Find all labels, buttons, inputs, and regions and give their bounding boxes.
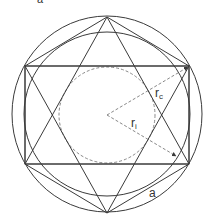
hexagram-triangle-up <box>25 17 189 164</box>
side-label: a <box>149 186 156 200</box>
geometry-diagram: a rc ri a <box>0 0 210 223</box>
hexagram-triangle-down <box>25 66 189 213</box>
circumradius-label: rc <box>155 86 163 101</box>
top-label-fragment: a <box>37 0 44 5</box>
inradius-label: ri <box>131 116 137 131</box>
outer-circumcircle <box>12 16 202 212</box>
inner-circle <box>24 32 190 196</box>
circumradius-arrow <box>107 67 188 115</box>
